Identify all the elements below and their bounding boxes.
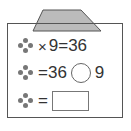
equation-row-3: = [18,91,89,111]
flower-icon [18,38,34,54]
times-sign: × [38,38,47,55]
equation-operand: 9 [95,63,104,83]
equals-sign: = [38,91,48,111]
answer-box-blank[interactable] [52,91,89,111]
equation-row-2: =36 9 [18,63,104,83]
equation-row-1: × 9=36 [18,36,87,56]
operator-circle-blank[interactable] [71,63,91,83]
flower-icon [18,93,34,109]
flower-icon [18,65,34,81]
equation-text: 9=36 [49,36,87,56]
equation-text: =36 [38,63,67,83]
